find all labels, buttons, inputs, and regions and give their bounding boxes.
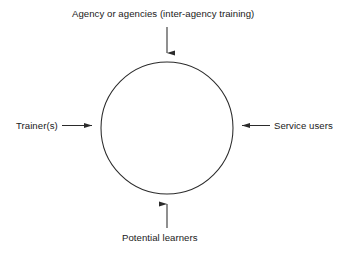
label-potential-learners: Potential learners [122, 232, 198, 243]
central-circle [101, 62, 233, 194]
label-service-users: Service users [274, 120, 333, 131]
diagram-canvas: Agency or agencies (inter-agency trainin… [0, 0, 344, 255]
label-agency: Agency or agencies (inter-agency trainin… [72, 8, 254, 19]
label-trainers: Trainer(s) [16, 120, 58, 131]
